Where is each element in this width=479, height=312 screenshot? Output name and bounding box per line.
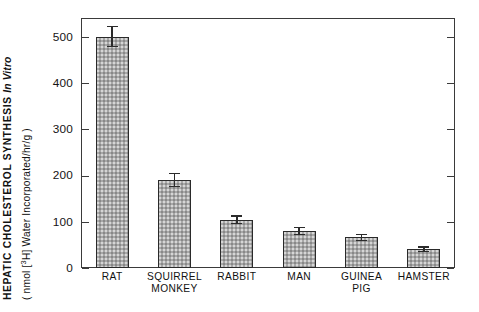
x-axis-category-label: MAN [268, 271, 330, 283]
bar [96, 37, 129, 268]
x-axis-category-label-line: RAT [81, 271, 143, 283]
x-axis-category-label: RAT [81, 271, 143, 283]
error-bar-cap-lower [169, 186, 180, 187]
x-axis-category-label-line: MAN [268, 271, 330, 283]
y-axis-tick-label: 100 [33, 215, 73, 229]
y-axis-tick-right [447, 268, 454, 269]
x-axis-category-label: HAMSTER [393, 271, 455, 283]
y-axis-title-line-2-prefix: ( nmol [ [21, 264, 32, 300]
x-axis-category-label-line: MONKEY [143, 283, 205, 295]
x-axis-category-label-line: SQUIRREL [143, 271, 205, 283]
error-bar-cap-upper [107, 26, 118, 27]
error-bar [111, 26, 112, 46]
bars-layer [81, 18, 455, 268]
bar [158, 180, 191, 268]
error-bar-cap-upper [418, 246, 429, 247]
bar [283, 231, 316, 268]
x-axis-category-label-line: PIG [330, 283, 392, 295]
y-axis-tick-label: 400 [33, 76, 73, 90]
y-axis-tick-label: 200 [33, 168, 73, 182]
x-axis-category-label-line: RABBIT [206, 271, 268, 283]
error-bar-cap-upper [294, 227, 305, 228]
x-axis-category-label: SQUIRRELMONKEY [143, 271, 205, 294]
error-bar-cap-lower [294, 234, 305, 235]
y-axis-tick-label: 500 [33, 30, 73, 44]
error-bar-cap-upper [169, 173, 180, 174]
y-axis-tick-left [82, 268, 89, 269]
y-axis-tick-label: 0 [33, 261, 73, 275]
x-axis-category-labels: RATSQUIRRELMONKEYRABBITMANGUINEAPIGHAMST… [81, 271, 455, 311]
x-axis-category-label-line: GUINEA [330, 271, 392, 283]
chart-figure: HEPATIC CHOLESTEROL SYNTHESIS In Vitro (… [0, 0, 479, 312]
error-bar-cap-lower [231, 223, 242, 224]
error-bar-cap-lower [356, 240, 367, 241]
y-axis-tick-label: 300 [33, 122, 73, 136]
error-bar [174, 174, 175, 187]
error-bar-cap-upper [356, 234, 367, 235]
bar [345, 237, 378, 268]
error-bar-cap-lower [418, 251, 429, 252]
x-axis-category-label-line: HAMSTER [393, 271, 455, 283]
bar [220, 220, 253, 268]
error-bar-cap-lower [107, 46, 118, 47]
x-axis-category-label: RABBIT [206, 271, 268, 283]
error-bar-cap-upper [231, 215, 242, 216]
x-axis-category-label: GUINEAPIG [330, 271, 392, 294]
